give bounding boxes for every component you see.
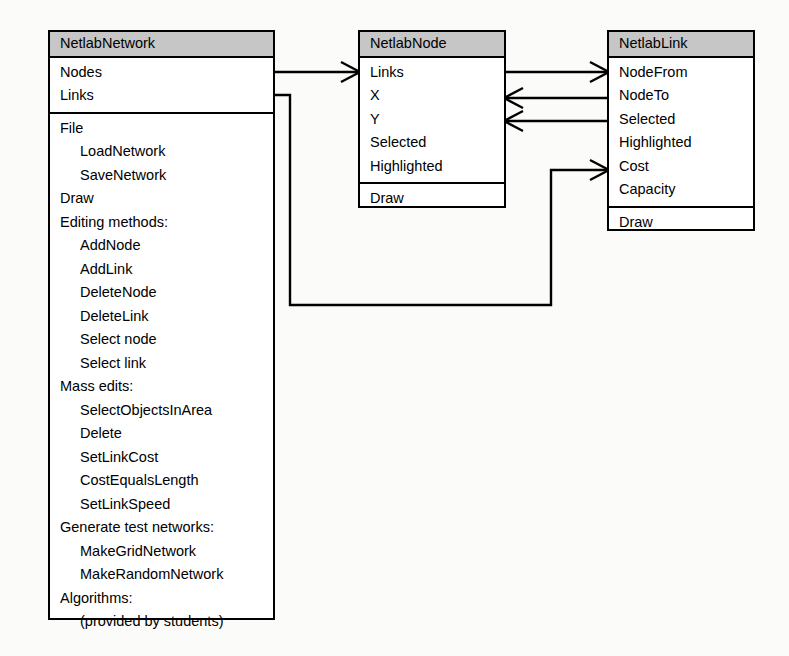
- attribute-cost: Cost: [609, 155, 753, 179]
- method-select-node: Select node: [50, 328, 273, 352]
- method-costequalslength: CostEqualsLength: [50, 469, 273, 493]
- class-box-netlab-network[interactable]: NetlabNetwork Nodes Links File LoadNetwo…: [48, 30, 275, 620]
- class-title-netlab-node: NetlabNode: [360, 32, 504, 58]
- attribute-highlighted: Highlighted: [609, 131, 753, 155]
- method-deletelink: DeleteLink: [50, 305, 273, 329]
- method-setlinkcost: SetLinkCost: [50, 446, 273, 470]
- method-makerandomnetwork: MakeRandomNetwork: [50, 563, 273, 587]
- connector-link-nodefrom-to-node: [504, 88, 607, 108]
- method-addlink: AddLink: [50, 258, 273, 282]
- group-mass-edits: Mass edits:: [50, 375, 273, 399]
- method-draw: Draw: [50, 187, 273, 211]
- methods-compartment-netlab-link: Draw: [609, 206, 753, 239]
- attributes-compartment-netlab-node: Links X Y Selected Highlighted: [360, 58, 504, 183]
- class-box-netlab-node[interactable]: NetlabNode Links X Y Selected Highlighte…: [358, 30, 506, 208]
- attribute-nodes: Nodes: [50, 61, 273, 85]
- method-delete: Delete: [50, 422, 273, 446]
- group-generate-test-networks: Generate test networks:: [50, 516, 273, 540]
- method-select-link: Select link: [50, 352, 273, 376]
- attributes-compartment-netlab-link: NodeFrom NodeTo Selected Highlighted Cos…: [609, 58, 753, 206]
- methods-compartment-netlab-node: Draw: [360, 182, 504, 215]
- group-editing-methods: Editing methods:: [50, 211, 273, 235]
- method-setlinkspeed: SetLinkSpeed: [50, 493, 273, 517]
- method-addnode: AddNode: [50, 234, 273, 258]
- attributes-compartment-netlab-network: Nodes Links: [50, 58, 273, 112]
- class-diagram-canvas: NetlabNetwork Nodes Links File LoadNetwo…: [0, 0, 789, 656]
- class-title-netlab-network: NetlabNetwork: [50, 32, 273, 58]
- attribute-selected: Selected: [360, 131, 504, 155]
- connector-link-nodeto-to-node: [504, 111, 607, 131]
- group-algorithms: Algorithms:: [50, 587, 273, 611]
- connector-node-links-to-link: [506, 62, 609, 82]
- attribute-capacity: Capacity: [609, 178, 753, 202]
- method-draw: Draw: [609, 211, 753, 235]
- attribute-nodeto: NodeTo: [609, 84, 753, 108]
- attribute-highlighted: Highlighted: [360, 155, 504, 179]
- method-draw: Draw: [360, 187, 504, 211]
- attribute-nodefrom: NodeFrom: [609, 61, 753, 85]
- attribute-x: X: [360, 84, 504, 108]
- method-deletenode: DeleteNode: [50, 281, 273, 305]
- class-title-netlab-link: NetlabLink: [609, 32, 753, 58]
- methods-compartment-netlab-network: File LoadNetwork SaveNetwork Draw Editin…: [50, 112, 273, 638]
- method-selectobjectsinarea: SelectObjectsInArea: [50, 399, 273, 423]
- attribute-links: Links: [50, 84, 273, 108]
- attribute-links: Links: [360, 61, 504, 85]
- method-loadnetwork: LoadNetwork: [50, 140, 273, 164]
- attribute-y: Y: [360, 108, 504, 132]
- class-box-netlab-link[interactable]: NetlabLink NodeFrom NodeTo Selected High…: [607, 30, 755, 231]
- method-file: File: [50, 117, 273, 141]
- note-provided-by-students: (provided by students): [50, 610, 273, 634]
- method-makegridnetwork: MakeGridNetwork: [50, 540, 273, 564]
- attribute-selected: Selected: [609, 108, 753, 132]
- connector-network-nodes-to-node: [275, 62, 360, 82]
- method-savenetwork: SaveNetwork: [50, 164, 273, 188]
